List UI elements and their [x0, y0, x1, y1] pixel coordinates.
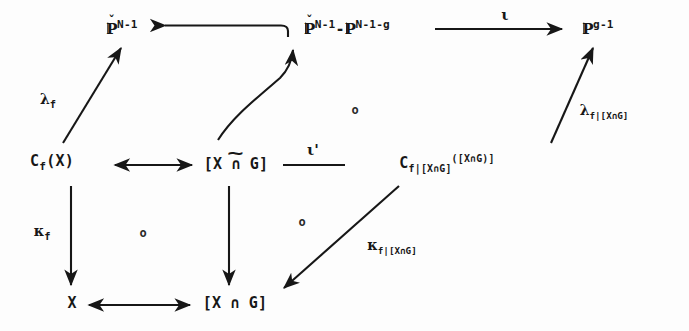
node-p-dual-minus-p: ˇPN-1-PN-1-g: [304, 19, 390, 38]
p-dual-base: ˇP: [106, 22, 117, 38]
commute-mark-lower-left: o: [139, 226, 146, 240]
p-dual-exponent-2: N-1: [315, 18, 336, 31]
lambda-restriction-subscript: f|[X∩G]: [589, 110, 628, 121]
kappa-glyph: κ: [34, 223, 45, 239]
commute-mark-upper-right: o: [351, 103, 358, 117]
kappa-subscript: f: [44, 230, 50, 242]
p-g-exponent: g-1: [593, 18, 614, 31]
node-bracket-x-cap-g: [X ∩ G]: [203, 296, 268, 312]
blackboard-p-stem: [346, 23, 347, 34]
conormal-argument: (X): [46, 152, 74, 170]
blackboard-p-glyph: P: [106, 22, 117, 38]
commute-mark-glyph: o: [351, 103, 358, 117]
p-subtracted-exponent: N-1-g: [356, 18, 390, 31]
node-p-g-1: Pg-1: [582, 19, 613, 38]
iota-glyph: ι: [501, 6, 508, 24]
edge-mid-left-to-top-left: [63, 48, 121, 143]
lambda-glyph: λ: [580, 102, 590, 118]
label-kappa-f: κf: [34, 224, 51, 242]
node-bracket-x-cap-g-tilde: ~[X ∩ G]: [204, 157, 269, 173]
label-iota-prime: ι': [307, 143, 319, 159]
kappa-restriction-subscript: f|[X∩G]: [378, 245, 417, 256]
node-c-f-restricted: Cf|[X∩G]([X∩G)]: [399, 154, 494, 174]
label-lambda-f-restricted: λf|[X∩G]: [580, 103, 629, 120]
blackboard-p-glyph: P: [582, 22, 593, 38]
set-minus-sign: -: [336, 20, 345, 38]
blackboard-p-stem: [107, 23, 108, 34]
commute-mark-glyph: o: [139, 226, 146, 240]
commute-mark-lower-right: o: [298, 215, 305, 229]
label-lambda-f: λf: [40, 92, 56, 110]
iota-prime-glyph: ι': [307, 141, 319, 159]
bracket-x-cap-g-text: [X ∩ G]: [203, 294, 268, 312]
kappa-glyph: κ: [367, 237, 378, 253]
node-p-dual-n-1: ˇPN-1: [106, 19, 137, 38]
conormal-c-letter: C: [30, 152, 39, 170]
commutative-diagram: ˇPN-1 ˇPN-1-PN-1-g Pg-1 Cf(X) ~[X ∩ G] C…: [0, 0, 689, 331]
p-dual-exponent: N-1: [117, 18, 138, 31]
diagram-edges-layer: [0, 0, 689, 331]
blackboard-p-stem: [583, 23, 584, 34]
conormal-c-letter: C: [399, 154, 408, 172]
edge-mid-right-to-bottom-center: [284, 186, 399, 288]
edge-mid-right-to-top-right: [551, 48, 593, 143]
edge-mid-center-to-top-middle: [218, 50, 293, 140]
conormal-restriction-subscript: f|[X∩G]: [409, 163, 452, 174]
commute-mark-glyph: o: [298, 215, 305, 229]
conormal-restriction-argument: ([X∩G)]: [452, 153, 495, 164]
lambda-subscript: f: [50, 98, 56, 110]
lambda-glyph: λ: [40, 91, 50, 107]
node-x: X: [67, 296, 76, 312]
p-dual-base-2: ˇP: [304, 22, 315, 38]
edge-top-middle-to-top-left: [165, 26, 288, 38]
blackboard-p-glyph: P: [304, 22, 315, 38]
label-kappa-f-restricted: κf|[X∩G]: [367, 238, 416, 255]
blackboard-p-stem: [305, 23, 306, 34]
blackboard-p-glyph-2: P: [345, 22, 356, 38]
label-iota: ι: [501, 8, 508, 24]
variety-x-label: X: [67, 294, 76, 312]
tilde-accent-icon: ~: [228, 144, 245, 162]
node-c-f-x: Cf(X): [30, 154, 74, 173]
tilde-accented-bracket: ~[X ∩ G]: [204, 157, 269, 173]
